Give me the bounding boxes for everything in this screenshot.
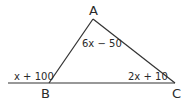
vertex-label-b: B (41, 86, 50, 101)
angle-label-b-exterior: x + 100 (14, 71, 54, 82)
side-ab (49, 19, 93, 83)
angle-label-a: 6x − 50 (82, 38, 122, 49)
angle-label-c: 2x + 10 (128, 71, 168, 82)
vertex-label-a: A (89, 3, 98, 18)
vertex-label-c: C (172, 86, 181, 101)
triangle-diagram: A B C 6x − 50 x + 100 2x + 10 (0, 0, 188, 102)
